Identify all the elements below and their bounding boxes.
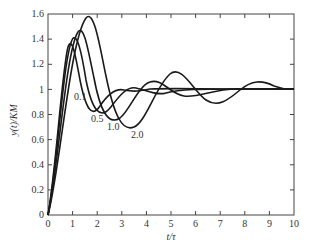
x-tick-label: 3 [119,218,124,229]
y-tick-label: 1.4 [32,33,45,44]
x-tick-label: 1 [70,218,75,229]
x-tick-label: 2 [95,218,100,229]
y-axis-title: y(t)/KM [8,104,20,137]
x-tick-label: 7 [218,218,223,229]
x-axis-title: t/τ [166,231,176,242]
x-tick-label: 9 [267,218,272,229]
x-tick-label: 0 [46,218,51,229]
x-tick-label: 4 [144,218,149,229]
y-tick-label: 0 [39,209,44,220]
x-tick-label: 10 [289,218,299,229]
x-tick-labels: 0 1 2 3 4 5 6 7 8 9 10 [46,218,300,229]
y-tick-label: 1.6 [32,8,45,19]
y-tick-label: 0.4 [32,159,45,170]
y-tick-labels: 0 0.2 0.4 0.6 0.8 1 1.2 1.4 1.6 [32,8,45,220]
x-tick-label: 5 [169,218,174,229]
curve-label-1.0: 1.0 [107,121,120,132]
step-response-chart: 0 1 2 3 4 5 6 7 8 9 10 0 0.2 0.4 0.6 0.8… [0,0,309,246]
plot-frame [48,14,294,215]
curve-0.5 [48,38,294,215]
y-tick-label: 0.8 [32,109,45,120]
curve-label-2.0: 2.0 [131,129,144,140]
x-tick-label: 8 [242,218,247,229]
curve-1.0 [48,31,294,215]
curve-label-0.5: 0.5 [91,113,104,124]
curves [48,16,294,215]
y-ticks [48,39,294,190]
curve-2.0 [48,16,294,215]
y-tick-label: 0.2 [32,184,45,195]
curve-label-0.1: 0.1 [74,91,87,102]
x-tick-label: 6 [193,218,198,229]
y-tick-label: 0.6 [32,134,45,145]
y-tick-label: 1.2 [32,58,45,69]
y-tick-label: 1 [39,84,44,95]
